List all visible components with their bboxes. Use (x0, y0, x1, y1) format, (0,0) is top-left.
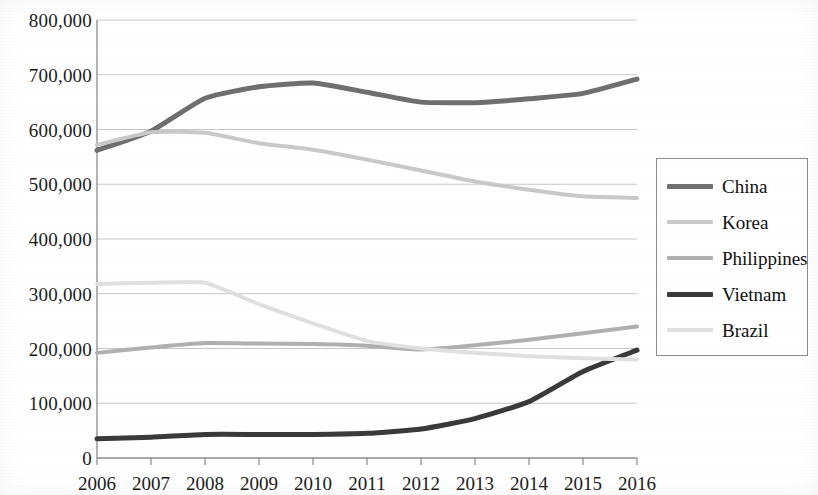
x-tick-label: 2009 (229, 474, 289, 493)
legend-item-vietnam[interactable]: Vietnam (667, 279, 786, 309)
legend-swatch-icon (667, 328, 713, 332)
legend-item-korea[interactable]: Korea (667, 207, 768, 237)
legend-label: China (722, 177, 767, 196)
legend-label: Philippines (722, 249, 808, 268)
legend-swatch-icon (667, 292, 713, 297)
x-tick-label: 2014 (499, 474, 559, 493)
legend-label: Vietnam (722, 285, 786, 304)
x-tick-label: 2010 (283, 474, 343, 493)
legend-item-philippines[interactable]: Philippines (667, 243, 808, 273)
x-tick-label: 2008 (175, 474, 235, 493)
legend-swatch-icon (667, 256, 713, 260)
x-tick-label: 2016 (607, 474, 667, 493)
x-tick-label: 2012 (391, 474, 451, 493)
x-tick-label: 2015 (553, 474, 613, 493)
line-chart: 800,000700,000600,000500,000400,000300,0… (0, 0, 818, 495)
x-tick-label: 2006 (67, 474, 127, 493)
legend: ChinaKoreaPhilippinesVietnamBrazil (656, 158, 808, 356)
legend-label: Korea (722, 213, 768, 232)
x-tick-label: 2011 (337, 474, 397, 493)
x-tick-label: 2007 (121, 474, 181, 493)
legend-item-brazil[interactable]: Brazil (667, 315, 768, 345)
x-tick-label: 2013 (445, 474, 505, 493)
legend-swatch-icon (667, 184, 713, 189)
legend-label: Brazil (722, 321, 768, 340)
legend-item-china[interactable]: China (667, 171, 767, 201)
legend-swatch-icon (667, 220, 713, 224)
